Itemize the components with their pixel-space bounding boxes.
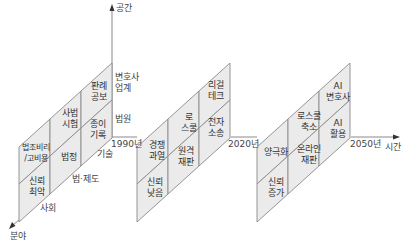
time-space-field-diagram: 공간 시간 분야 변호사 업계 법원 기술 법·제도 사회 1990년 2020…	[0, 0, 410, 246]
space-label-court: 법원	[115, 114, 131, 125]
space-label-lawyers: 변호사 업계	[115, 72, 139, 94]
time-axis-label: 시간	[385, 142, 401, 153]
cell-2020-society-bottom: 신뢰 낮음	[147, 177, 163, 199]
cell-2050-law-bottom: 온라인 재판	[297, 144, 321, 166]
cell-1990-tech-bottom: 종이 기록	[90, 119, 106, 141]
cell-2020-tech-top: 리걸 테크	[208, 80, 224, 102]
time-axis-arrow-icon	[393, 135, 400, 140]
year-label-1990: 1990년	[111, 139, 142, 150]
cell-2050-tech-bottom: AI 활용	[330, 118, 346, 140]
cell-2050-society-bottom: 신뢰 증가	[268, 177, 284, 199]
cell-2020-society-top: 경쟁 과열	[149, 140, 165, 162]
space-axis-arrow-icon	[110, 4, 115, 11]
cell-1990-tech-top: 판례 공보	[91, 81, 107, 103]
panels-group	[19, 63, 350, 222]
space-axis-label: 공간	[116, 3, 132, 14]
field-axis-label: 분야	[10, 231, 26, 242]
field-axis-arrow-icon	[9, 222, 16, 229]
field-label-tech: 기술	[97, 149, 113, 160]
field-label-society: 사회	[40, 203, 56, 214]
cell-2020-tech-bottom: 전자 소송	[208, 117, 224, 139]
cell-2050-tech-top: AI 변호사	[326, 81, 350, 103]
field-label-law: 법·제도	[72, 174, 99, 185]
cell-2020-law-bottom: 원격 재판	[178, 146, 194, 168]
cell-1990-law-top: 사법 시험	[62, 108, 78, 130]
cell-1990-law-bottom: 법정	[61, 152, 77, 163]
cell-2050-law-top: 로스쿨 축소	[297, 111, 321, 133]
cell-2050-society-top: 양극화	[264, 147, 288, 158]
cell-1990-society-top: 법조비리 /고비용	[22, 142, 50, 164]
year-label-2050: 2050년	[350, 139, 381, 150]
cell-1990-society-bottom: 신뢰 최악	[29, 176, 45, 198]
cell-2020-law-top: 로 스쿨	[181, 112, 197, 134]
year-label-2020: 2020년	[228, 139, 259, 150]
